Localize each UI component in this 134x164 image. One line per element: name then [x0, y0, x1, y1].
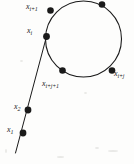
- diagram-canvas: [0, 0, 134, 164]
- scan-speck: [108, 150, 118, 152]
- cycle-circle: [46, 1, 122, 77]
- node-dot-x_i_plus_2: [99, 1, 106, 8]
- label-subscript: i+1: [29, 6, 37, 12]
- node-label-x_2: x2: [14, 103, 20, 111]
- label-subscript: i+j: [117, 73, 124, 79]
- scan-speck: [95, 147, 99, 149]
- node-dot-x_i: [43, 33, 50, 40]
- node-dot-group: [20, 1, 116, 136]
- node-dot-x_1: [20, 130, 27, 137]
- node-label-x_i_plus_1: xi+1: [26, 3, 38, 11]
- node-dot-x_2: [25, 107, 32, 114]
- node-dot-x_i_plus_1: [47, 7, 54, 14]
- scan-speck: [5, 149, 7, 153]
- node-label-x_i_plus_j: xi+j: [114, 70, 124, 78]
- node-dot-x_i_plus_j_1: [59, 67, 66, 74]
- scan-speck: [20, 60, 23, 62]
- tail-line: [16, 37, 47, 154]
- node-label-x_i: xi: [27, 27, 32, 35]
- node-label-x_i_plus_j_1: xi+j+1: [42, 80, 59, 88]
- node-label-x_1: x1: [7, 126, 13, 134]
- tail-group: [16, 37, 47, 154]
- label-subscript: i: [30, 30, 31, 36]
- label-subscript: 1: [10, 129, 13, 135]
- rho-cycle-diagram: xi+1xixi+jxi+j+1x2x1: [0, 0, 134, 164]
- scan-speck: [57, 156, 64, 158]
- label-subscript: i+j+1: [45, 83, 58, 89]
- cycle-group: [46, 1, 122, 77]
- label-subscript: 2: [17, 106, 20, 112]
- scan-speck: [84, 92, 87, 94]
